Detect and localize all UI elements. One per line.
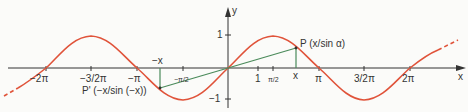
point-p-prime <box>159 87 162 90</box>
tick-label-pi-2: π/2 <box>268 76 279 83</box>
point-p-label: P (x/sin α) <box>300 38 345 49</box>
y-axis-label: y <box>232 5 237 16</box>
y-tick-label-1: 1 <box>217 29 223 40</box>
sine-diagram: −2π −3/2π −π −π/2 1 π/2 π 3/2π 2π x y 1 … <box>0 0 468 112</box>
point-p <box>295 47 298 50</box>
tick-label-2pi: 2π <box>402 73 415 84</box>
sine-curve-dashed-left <box>4 88 18 96</box>
tick-label-3-2-pi: 3/2π <box>354 73 375 84</box>
x-marker-label: x <box>293 70 298 81</box>
tick-label-neg-pi: −π <box>128 73 141 84</box>
tick-label-neg-2pi: −2π <box>30 73 48 84</box>
tick-label-neg-pi-2: −π/2 <box>174 76 189 83</box>
neg-x-label: −x <box>152 55 163 66</box>
tick-label-pi: π <box>315 73 322 84</box>
sine-curve-dashed-right <box>438 40 458 50</box>
point-p-prime-label: P' (−x/sin (−x)) <box>82 85 147 96</box>
x-axis-label: x <box>458 71 463 82</box>
tick-label-1: 1 <box>255 73 261 84</box>
y-axis-arrow-icon <box>225 7 231 17</box>
y-tick-label-neg-1: −1 <box>209 93 221 104</box>
tick-label-neg-3-2-pi: −3/2π <box>80 73 107 84</box>
